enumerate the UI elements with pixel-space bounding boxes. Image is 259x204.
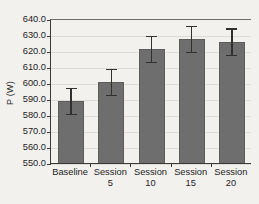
y-axis-tick-labels: 640.0630.0620.0610.0600.0590.0580.0570.0… [6, 0, 46, 204]
y-axis-tick-label: 590.0 [10, 94, 46, 104]
error-bar-cap-lower [146, 62, 157, 63]
y-axis-tick-mark [47, 20, 51, 21]
x-axis-tick-label: Session 5 [90, 167, 130, 188]
error-bar-cap-upper [226, 28, 237, 29]
plot-area [50, 19, 251, 163]
y-axis-tick-label: 620.0 [10, 46, 46, 56]
error-bar-cap-lower [226, 55, 237, 56]
error-bar-line [70, 88, 71, 114]
error-bar-cap-lower [186, 52, 197, 53]
error-bar-cap-upper [186, 26, 197, 27]
error-bar-line [231, 28, 232, 55]
error-bar-line [111, 69, 112, 95]
y-axis-tick-mark [47, 68, 51, 69]
x-axis-line [50, 163, 251, 164]
y-axis-tick-label: 550.0 [10, 158, 46, 168]
y-axis-tick-mark [47, 132, 51, 133]
y-axis-tick-mark [47, 84, 51, 85]
y-axis-tick-mark [47, 36, 51, 37]
bar [219, 42, 245, 164]
error-bar-line [151, 36, 152, 62]
y-axis-tick-label: 560.0 [10, 142, 46, 152]
x-axis-tick-label: Session 15 [171, 167, 211, 188]
bar [179, 39, 205, 164]
y-axis-tick-mark [47, 100, 51, 101]
error-bar-cap-upper [146, 36, 157, 37]
bar [139, 49, 165, 164]
y-axis-tick-label: 580.0 [10, 110, 46, 120]
y-axis-tick-mark [47, 52, 51, 53]
y-axis-tick-label: 640.0 [10, 14, 46, 24]
x-axis-tick-label: Session 20 [211, 167, 251, 188]
error-bar-line [191, 26, 192, 52]
bar-chart-figure: P (W) 640.0630.0620.0610.0600.0590.0580.… [0, 0, 259, 204]
x-axis-tick-label: Session 10 [130, 167, 170, 188]
error-bar-cap-upper [106, 69, 117, 70]
y-axis-tick-mark [47, 148, 51, 149]
y-axis-tick-label: 630.0 [10, 30, 46, 40]
y-axis-tick-label: 610.0 [10, 62, 46, 72]
error-bar-cap-lower [66, 114, 77, 115]
y-axis-tick-label: 570.0 [10, 126, 46, 136]
y-axis-tick-mark [47, 116, 51, 117]
error-bar-cap-upper [66, 88, 77, 89]
error-bar-cap-lower [106, 95, 117, 96]
y-axis-tick-label: 600.0 [10, 78, 46, 88]
x-axis-tick-label: Baseline [50, 167, 90, 178]
